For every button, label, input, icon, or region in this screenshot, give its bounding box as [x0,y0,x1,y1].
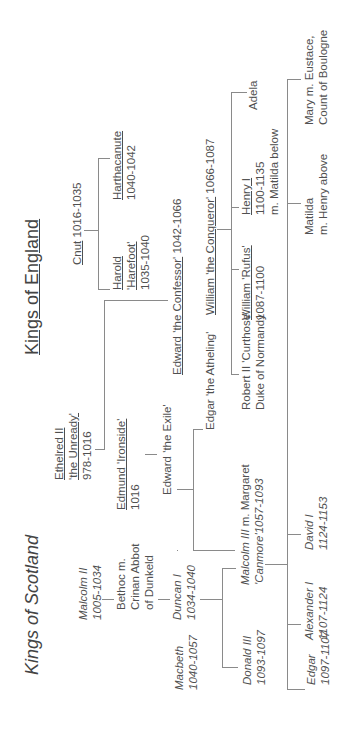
henry-name: Henry I [239,129,253,215]
conqueror-down-line [217,229,231,230]
cnut-name: Cnut [71,241,83,265]
bethoc-entry: Bethoc m. Crinan Abbot of Dunkeld [114,544,156,611]
edmund-down-line [145,454,157,455]
henry-entry: Henry I 1100-1135 m. Matilda below [239,129,281,215]
adela-entry: Adela [246,81,260,110]
confessor-dates: 1042-1066 [171,199,183,257]
atheling-drop-line [193,429,203,430]
malcolm3-marriage: m. Margaret [239,464,251,529]
mary-name: Mary m. Eustace, [302,30,316,125]
robert-name: Robert II 'Curthose' [239,312,253,410]
canmore-children-bar [287,79,288,690]
edmund-dates: 1016 [128,419,142,510]
robert-drop-line [231,374,239,375]
mary-drop-line [287,79,301,80]
donald3-entry: Donald III 1093-1097 [240,630,268,685]
exile-stub [177,550,178,551]
david-dates: 1124-1153 [316,497,330,550]
macbeth-dates: 1040-1057 [186,635,200,690]
matilda-entry: Matilda m. Henry above [302,154,330,235]
harthacanute-name: Harthacanute [110,131,124,200]
macbeth-name: Macbeth [172,635,186,690]
rufus-name: William 'Rufus' [239,245,253,320]
harold-epithet: 'Harefoot' [124,235,138,290]
robert-title: Duke of Normandy [253,312,267,410]
david-name: David I [302,497,316,550]
malcolm2-name: Malcolm II [76,565,90,620]
duncan-dates: 1034-1040 [184,565,198,620]
david-drop-line [287,534,301,535]
kings-of-scotland-title: Kings of Scotland [22,535,42,675]
ethelred-epithet: 'the Unready' [66,413,80,480]
donald3-name: Donald III [240,630,254,685]
cnut-dates: 1016-1035 [71,183,83,241]
conqueror-dates: 1066-1087 [204,139,216,197]
henry-marriage: m. Matilda below [267,129,281,215]
edward-exile-entry: Edward 'the Exile' [160,404,174,495]
duncan-down-line [200,599,222,600]
confessor-name: Edward 'the Confessor' [171,257,183,375]
david-entry: David I 1124-1153 [302,497,330,550]
margaret-drop-line [193,550,235,551]
harold-entry: Harold 'Harefoot' 1035-1040 [110,235,152,290]
rufus-drop-line [231,269,239,270]
family-tree-page: Kings of England Kings of Scotland Cnut … [0,0,347,731]
malcolm2-dates: 1005-1034 [90,565,104,620]
harthacanute-dates: 1040-1042 [124,131,138,200]
ethelred-dates: 978-1016 [80,413,94,480]
alexander-name: Alexander I [302,582,316,640]
malcolm2-entry: Malcolm II 1005-1034 [76,565,104,620]
william-rufus-entry: William 'Rufus' 1087-1100 [239,245,267,320]
harthacanute-drop-line [98,158,110,159]
william-conqueror-entry: William 'the Conqueror' 1066-1087 [203,139,217,315]
rufus-dates: 1087-1100 [253,245,267,320]
harold-dates: 1035-1040 [138,235,152,290]
mary-spouse-title: Count of Boulogne [316,30,330,125]
confessor-drop-line [104,300,168,301]
donald3-drop-line [222,667,238,668]
canmore-down-line [265,564,287,565]
malcolm3-epithet-dates: 'Canmore'1057-1093 [252,464,266,585]
cnut-down-line [84,230,98,231]
malcolm2-down-line [102,599,114,600]
exile-down-line [177,489,193,490]
matilda-name: Matilda [302,154,316,235]
duncan-children-bar [222,568,223,668]
crinan-title: of Dunkeld [142,544,156,611]
kings-of-england-title: Kings of England [22,219,42,355]
edgar-scot-drop-line [287,689,305,690]
alexander-dates: 1107-1124 [316,582,330,640]
malcolm3-entry: Malcolm III m. Margaret 'Canmore'1057-10… [238,464,266,585]
matilda-marriage: m. Henry above [316,154,330,235]
matilda-drop-line [287,203,301,204]
ethelred-children-bar [104,300,105,450]
crinan-name: Crinan Abbot [128,544,142,611]
donald3-dates: 1093-1097 [254,630,268,685]
harthacanute-entry: Harthacanute 1040-1042 [110,131,138,200]
cnut-entry: Cnut 1016-1035 [70,183,84,266]
exile-children-bar [193,429,194,551]
edward-confessor-entry: Edward 'the Confessor' 1042-1066 [170,199,184,375]
duncan-name: Duncan I [170,565,184,620]
mary-entry: Mary m. Eustace, Count of Boulogne [302,30,330,125]
conqueror-name: William 'the Conqueror' [204,197,216,315]
adela-drop-line [231,92,247,93]
malcolm3-name: Malcolm III [239,529,251,585]
duncan-entry: Duncan I 1034-1040 [170,565,198,620]
bethoc-down-line [158,599,170,600]
edgar-atheling-entry: Edgar 'the Atheling' [203,332,217,430]
robert-entry: Robert II 'Curthose' Duke of Normandy [239,312,267,410]
cnut-children-bar [98,159,99,290]
bethoc-name: Bethoc m. [114,544,128,611]
edmund-entry: Edmund 'Ironside' 1016 [114,419,142,510]
alexander-drop-line [287,624,301,625]
ethelred-name: Ethelred II [52,413,66,480]
harold-drop-line [98,289,110,290]
harold-name: Harold [110,235,124,290]
malcolm3-drop-line [222,568,236,569]
macbeth-entry: Macbeth 1040-1057 [172,635,200,690]
henry-drop-line [231,207,239,208]
henry-dates: 1100-1135 [253,129,267,215]
conqueror-children-bar [231,92,232,375]
edmund-name: Edmund 'Ironside' [114,419,128,510]
